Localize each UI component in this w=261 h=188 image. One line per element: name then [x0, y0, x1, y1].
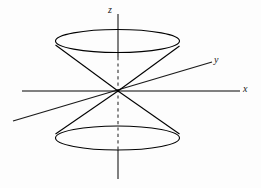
double-cone-figure: z y x [0, 0, 261, 188]
x-axis-label: x [243, 84, 247, 94]
cone-diagram-svg [0, 0, 261, 188]
y-axis-label: y [214, 55, 218, 65]
z-axis-label: z [108, 5, 112, 15]
